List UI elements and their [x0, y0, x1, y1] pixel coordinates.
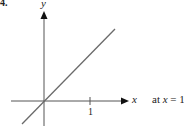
x-axis-arrow-icon — [121, 98, 129, 105]
x-axis-label: x — [132, 94, 137, 105]
line-y-equals-x — [22, 29, 115, 124]
annotation-prefix: at — [152, 93, 163, 105]
x-tick-label: 1 — [88, 106, 93, 117]
y-axis-arrow-icon — [41, 11, 48, 19]
y-axis-label: y — [41, 0, 46, 9]
annotation: at x = 1 — [152, 94, 184, 105]
annotation-suffix: = 1 — [168, 93, 184, 105]
